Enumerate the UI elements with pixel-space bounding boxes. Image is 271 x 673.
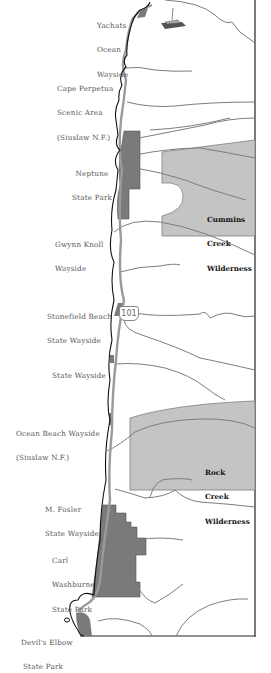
label-line: Cummins (207, 216, 252, 224)
label-carl-washburne: Carl Washburne State Park (52, 540, 95, 623)
label-cape-perpetua: Cape Perpetua Scenic Area (Siuslaw N.F.) (57, 68, 113, 151)
label-line: State Wayside (45, 530, 99, 538)
state-wayside-area (110, 355, 114, 363)
label-line: Ocean Beach Wayside (16, 430, 100, 438)
label-stonefield: Stonefield Beach State Wayside (47, 296, 112, 354)
label-line: State Park (52, 606, 95, 614)
label-line: Neptune (72, 170, 112, 178)
label-line: Wayside (55, 265, 104, 273)
label-line: Wilderness (205, 518, 250, 526)
label-state-wayside: State Wayside (52, 355, 106, 388)
label-line: Devil's Elbow (21, 639, 73, 647)
label-line: Rock (205, 469, 250, 477)
label-line: State Wayside (47, 337, 112, 345)
label-cummins-creek-wilderness: Cummins Creek Wilderness (207, 199, 252, 282)
label-ocean-beach: Ocean Beach Wayside (Siuslaw N.F.) (16, 413, 100, 471)
label-line: Scenic Area (57, 109, 113, 117)
label-line: Yachats (97, 22, 128, 30)
label-line: Washburne (52, 581, 95, 589)
label-line: State Park (21, 663, 73, 671)
label-line: Wilderness (207, 265, 252, 273)
label-rock-creek-wilderness: Rock Creek Wilderness (205, 452, 250, 535)
label-line: (Siuslaw N.F.) (16, 454, 100, 462)
highway-101-shield-icon: 101 (119, 306, 139, 321)
label-line: Stonefield Beach (47, 313, 112, 321)
label-line: Carl (52, 557, 95, 565)
label-line: State Wayside (52, 372, 106, 380)
label-line: Ocean (97, 46, 128, 54)
label-line: Creek (205, 493, 250, 501)
boat-icon (161, 8, 186, 29)
label-line: State Park (72, 194, 112, 202)
label-devils-elbow: Devil's Elbow State Park (21, 622, 73, 673)
label-line: M. Fosler (45, 506, 99, 514)
label-m-fosler: M. Fosler State Wayside (45, 489, 99, 547)
label-neptune: Neptune State Park (72, 153, 112, 211)
label-line: (Siuslaw N.F.) (57, 134, 113, 142)
label-line: Gwynn Knoll (55, 241, 104, 249)
label-gwynn-knoll: Gwynn Knoll Wayside (55, 224, 104, 282)
label-line: Creek (207, 240, 252, 248)
label-line: Cape Perpetua (57, 85, 113, 93)
